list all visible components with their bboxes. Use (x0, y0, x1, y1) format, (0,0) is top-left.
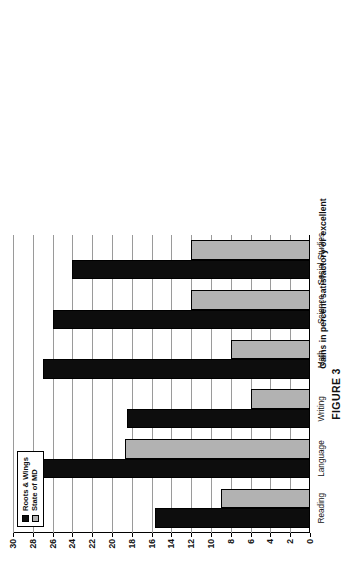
value-tick-label: 2 (285, 539, 295, 544)
value-tick-label: 14 (166, 539, 176, 549)
bar-group: Language (13, 434, 310, 484)
value-tick-label: 28 (28, 539, 38, 549)
bar-group: Reading (13, 483, 310, 533)
value-tick-label: 26 (48, 539, 58, 549)
value-tick-label: 24 (67, 539, 77, 549)
axis-tick (290, 533, 291, 537)
axis-tick (33, 533, 34, 537)
axis-tick (191, 533, 192, 537)
axis-tick (72, 533, 73, 537)
bar[interactable] (72, 260, 310, 280)
axis-tick (112, 533, 113, 537)
legend-label: Roots & Wings (21, 457, 30, 511)
axis-tick (211, 533, 212, 537)
bar[interactable] (53, 310, 310, 330)
axis-tick (13, 533, 14, 537)
axis-tick (152, 533, 153, 537)
axis-tick (53, 533, 54, 537)
value-tick-label: 20 (107, 539, 117, 549)
bar-group: Writing (13, 384, 310, 434)
axis-tick (132, 533, 133, 537)
legend-box: Roots & WingsState of MD (17, 451, 44, 527)
bar[interactable] (191, 290, 310, 310)
value-tick-label: 30 (8, 539, 18, 549)
value-tick-label: 12 (186, 539, 196, 549)
legend-swatch-icon (32, 515, 39, 522)
value-tick-label: 16 (147, 539, 157, 549)
axis-tick (270, 533, 271, 537)
bar-group: Math (13, 334, 310, 384)
bar-groups: ReadingLanguageWritingMathScienceSocial … (13, 235, 310, 533)
axis-tick (231, 533, 232, 537)
legend-label: State of MD (30, 469, 39, 511)
value-tick-label: 10 (206, 539, 216, 549)
legend-item[interactable]: Roots & Wings (21, 457, 30, 522)
bar[interactable] (221, 489, 310, 509)
value-tick-label: 6 (246, 539, 256, 544)
bar[interactable] (43, 359, 310, 379)
value-tick-label: 18 (127, 539, 137, 549)
legend-swatch-icon (22, 515, 29, 522)
figure-caption: FIGURE 3 (330, 354, 342, 433)
bar[interactable] (191, 240, 310, 260)
axis-tick (92, 533, 93, 537)
axis-tick (310, 533, 311, 537)
value-tick-label: 0 (305, 539, 315, 544)
bar[interactable] (125, 439, 310, 459)
legend-item[interactable]: State of MD (30, 457, 39, 522)
bar[interactable] (231, 340, 310, 360)
value-tick-label: 8 (226, 539, 236, 544)
bar[interactable] (251, 389, 310, 409)
bar[interactable] (127, 409, 310, 429)
value-tick-label: 4 (265, 539, 275, 544)
axis-tick (171, 533, 172, 537)
axis-tick (251, 533, 252, 537)
rotated-chart-area: 302826242220181614121086420 ReadingLangu… (0, 0, 345, 567)
bar[interactable] (35, 459, 310, 479)
figure-canvas: 302826242220181614121086420 ReadingLangu… (0, 0, 345, 567)
bar[interactable] (155, 508, 310, 528)
bar-group: Social Studies (13, 235, 310, 285)
value-axis-title: Gains in percent satisfactory or excelle… (318, 0, 328, 567)
value-tick-label: 22 (87, 539, 97, 549)
bar-group: Science (13, 285, 310, 335)
plot-area: 302826242220181614121086420 ReadingLangu… (13, 235, 310, 533)
